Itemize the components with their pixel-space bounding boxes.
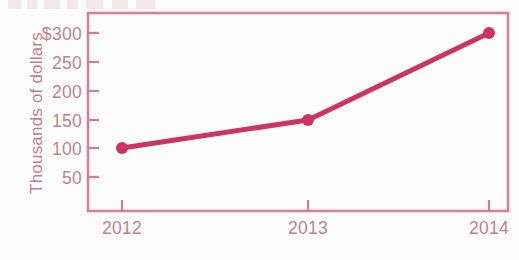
data-point-2013 [302,114,314,126]
y-tick-marks [88,33,99,177]
data-point-2014 [483,27,495,39]
axis-frame [88,13,508,211]
data-point-2012 [116,142,128,154]
data-line-series [122,33,489,148]
chart-figure: Thousands of dollars $300 250 200 150 10… [0,0,519,260]
plot-area [0,0,519,260]
x-tick-marks [122,200,489,211]
